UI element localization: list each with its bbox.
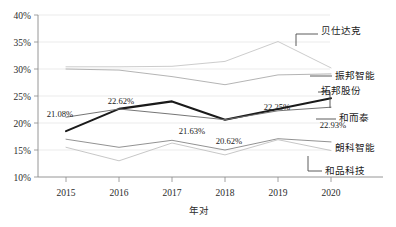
callout-label: 朗科智能 <box>335 142 375 153</box>
line-chart: 40% 35% 30% 25% 20% 15% 10% 2015 2016 20… <box>0 0 396 227</box>
data-label: 21.63% <box>179 126 206 136</box>
callout-beishidake: 贝仕达克 <box>296 25 361 46</box>
callout-hepinkeji: 和品科技 <box>308 156 365 176</box>
callout-label: 振邦智能 <box>335 70 375 81</box>
data-label: 20.62% <box>216 136 243 146</box>
y-tick-label: 20% <box>14 119 32 129</box>
callout-label: 和品科技 <box>325 165 365 176</box>
y-tick-label: 30% <box>14 65 32 75</box>
y-axis: 40% 35% 30% 25% 20% 15% 10% <box>14 11 38 183</box>
series-line-1 <box>66 69 331 85</box>
callout-label: 贝仕达克 <box>321 25 361 36</box>
y-tick-label: 10% <box>14 173 32 183</box>
y-tick-label: 25% <box>14 92 32 102</box>
series-line-0 <box>66 42 331 68</box>
callout-langkezhineng: 朗科智能 <box>335 142 375 153</box>
x-tick-label: 2017 <box>163 188 182 198</box>
x-axis: 2015 2016 2017 2018 2019 2020 年对 <box>38 177 383 216</box>
x-tick-label: 2018 <box>216 188 235 198</box>
x-tick-label: 2016 <box>110 188 129 198</box>
series-layer <box>66 42 331 161</box>
x-tick-label: 2020 <box>322 188 341 198</box>
series-line-4 <box>66 139 331 150</box>
data-label: 22.25% <box>264 102 291 112</box>
data-label: 21.08% <box>47 109 74 119</box>
x-axis-title: 年对 <box>189 205 209 216</box>
y-tick-label: 40% <box>14 11 32 21</box>
data-label: 22.62% <box>108 96 135 106</box>
x-tick-label: 2015 <box>57 188 76 198</box>
y-tick-label: 15% <box>14 146 32 156</box>
callout-label: 拓邦股份 <box>321 85 361 96</box>
callout-zhenbangzhineng: 振邦智能 <box>310 70 375 81</box>
x-tick-label: 2019 <box>269 188 288 198</box>
y-tick-label: 35% <box>14 38 32 48</box>
callout-label: 和而泰 <box>339 112 369 123</box>
